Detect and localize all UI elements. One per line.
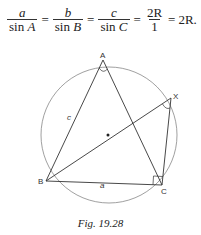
label-X: X <box>173 92 179 101</box>
angle-arc-X <box>163 104 171 109</box>
label-side-c: c <box>67 113 71 122</box>
diameter-BX <box>46 98 171 181</box>
circumcircle-figure: A B C X c a <box>0 0 201 235</box>
angle-arc-A <box>99 68 107 71</box>
side-c-AB <box>46 60 103 181</box>
center-point <box>107 134 110 137</box>
label-side-a: a <box>100 181 105 190</box>
label-B: B <box>38 177 43 186</box>
side-b-AC <box>103 60 162 185</box>
label-C: C <box>161 187 167 196</box>
label-A: A <box>100 51 106 60</box>
figure-caption: Fig. 19.28 <box>0 217 201 229</box>
